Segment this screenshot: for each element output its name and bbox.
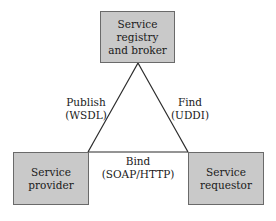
- edge-find-line2: (UDDI): [165, 109, 215, 122]
- edge-publish-line2: (WSDL): [58, 109, 114, 122]
- node-service-registry-broker: Service registry and broker: [100, 11, 175, 63]
- edge-label-publish: Publish (WSDL): [58, 96, 114, 122]
- node-service-requestor: Service requestor: [188, 152, 264, 205]
- node-provider-line1: Service provider: [14, 166, 88, 192]
- edge-publish-line1: Publish: [58, 96, 114, 109]
- edge-label-find: Find (UDDI): [165, 96, 215, 122]
- node-requestor-line2: requestor: [200, 179, 252, 192]
- node-registry-line1: Service registry: [101, 18, 174, 44]
- edge-bind-line1: Bind: [98, 155, 178, 168]
- soa-diagram: Service registry and broker Service prov…: [0, 0, 276, 221]
- edge-bind-line2: (SOAP/HTTP): [98, 168, 178, 181]
- node-requestor-line1: Service: [200, 166, 252, 179]
- node-service-provider: Service provider: [13, 152, 89, 205]
- edge-find-line1: Find: [165, 96, 215, 109]
- edge-label-bind: Bind (SOAP/HTTP): [98, 155, 178, 181]
- node-registry-line2: and broker: [101, 44, 174, 57]
